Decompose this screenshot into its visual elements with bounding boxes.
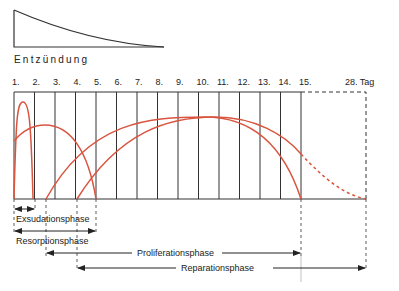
day-label: 10. bbox=[197, 77, 210, 87]
day-label: 2. bbox=[33, 77, 41, 87]
inflammation-curve bbox=[14, 10, 164, 47]
resorption-label: Resorptionsphase bbox=[16, 236, 89, 246]
day-label: 1. bbox=[12, 77, 20, 87]
day-label: 3. bbox=[53, 77, 61, 87]
reparation-curve bbox=[77, 117, 301, 199]
wound-healing-phase-diagram: Entzündung 1.2.3.4.5.6.7.8.9.10.11.12.13… bbox=[0, 0, 399, 291]
day-label: 5. bbox=[94, 77, 102, 87]
day-label: 12. bbox=[238, 77, 251, 87]
day-labels: 1.2.3.4.5.6.7.8.9.10.11.12.13.14.15. bbox=[12, 77, 312, 87]
day-grid bbox=[14, 92, 366, 199]
day-label: 11. bbox=[217, 77, 229, 87]
reparation-curve-extended bbox=[301, 154, 366, 199]
extended-period-dashed-box bbox=[301, 92, 366, 199]
day-label: 6. bbox=[115, 77, 123, 87]
exsudation-curve bbox=[14, 102, 33, 199]
reparation-label: Reparationsphase bbox=[181, 263, 254, 273]
phase-ticks bbox=[14, 199, 366, 270]
day-label: 14. bbox=[279, 77, 292, 87]
day-label: 7. bbox=[135, 77, 143, 87]
proliferation-label: Proliferationsphase bbox=[137, 248, 214, 258]
exsudation-label: Exsudationsphase bbox=[16, 214, 90, 224]
day-label: 15. bbox=[299, 77, 312, 87]
day-label: 4. bbox=[74, 77, 82, 87]
inflammation-label: Entzündung bbox=[14, 54, 89, 65]
day-28-label: 28. Tag bbox=[345, 77, 374, 87]
phase-curves bbox=[14, 102, 366, 199]
day-label: 13. bbox=[258, 77, 271, 87]
day-label: 8. bbox=[156, 77, 164, 87]
day-label: 9. bbox=[176, 77, 184, 87]
